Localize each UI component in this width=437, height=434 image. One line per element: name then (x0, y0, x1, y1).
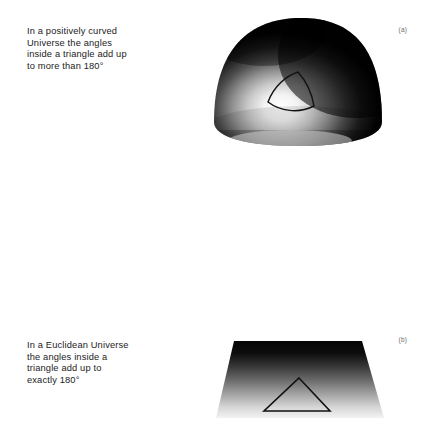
dome-body (206, 10, 396, 152)
caption-positively-curved: In a positively curved Universe the angl… (27, 26, 187, 72)
panel-positively-curved: In a positively curved Universe the angl… (0, 0, 437, 160)
curved-universe-figure: In a positively curved Universe the angl… (0, 0, 437, 434)
panel-negatively-curved: In a negatively curved Universe the angl… (0, 300, 437, 434)
panel-label-a: (a) (399, 26, 407, 33)
panel-euclidean: In a Euclidean Universe the angles insid… (0, 160, 437, 300)
sphere-dome-illustration (206, 10, 396, 152)
